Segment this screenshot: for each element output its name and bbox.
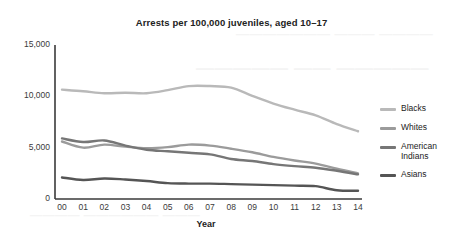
y-tick-label: 5,000 <box>8 142 50 152</box>
x-tick-label: 03 <box>114 202 136 212</box>
x-tick-label: 11 <box>284 202 306 212</box>
legend-label: American Indians <box>401 142 437 161</box>
x-tick-label: 07 <box>199 202 221 212</box>
legend-swatch-icon <box>380 108 396 111</box>
x-tick-label: 09 <box>241 202 263 212</box>
legend-item-whites[interactable]: Whites <box>380 123 463 135</box>
x-tick-label: 13 <box>326 202 348 212</box>
legend-item-blacks[interactable]: Blacks <box>380 104 463 116</box>
y-tick-label: 10,000 <box>8 90 50 100</box>
legend-label: Blacks <box>401 104 426 114</box>
x-axis-title: Year <box>50 219 362 229</box>
legend-item-asians[interactable]: Asians <box>380 170 463 182</box>
y-tick-label: 15,000 <box>8 39 50 49</box>
arrests-by-race-line-chart: ——————— ——— ———— ————— —— ————— ———— ———… <box>0 0 463 252</box>
series-paths <box>62 86 358 191</box>
legend-item-american-indians[interactable]: American Indians <box>380 142 463 163</box>
legend-label: Whites <box>401 123 427 133</box>
x-tick-label: 02 <box>93 202 115 212</box>
x-tick-label: 00 <box>51 202 73 212</box>
x-tick-label: 05 <box>157 202 179 212</box>
x-tick-label: 08 <box>220 202 242 212</box>
series-line-asians <box>62 177 358 190</box>
chart-legend: BlacksWhitesAmerican IndiansAsians <box>380 104 463 189</box>
x-tick-label: 10 <box>262 202 284 212</box>
x-axis-tick-labels: 000102030405060708091011121314 <box>0 202 463 216</box>
axis-lines <box>55 45 362 199</box>
x-tick-label: 04 <box>136 202 158 212</box>
series-line-blacks <box>62 86 358 132</box>
legend-swatch-icon <box>380 127 396 130</box>
legend-swatch-icon <box>380 174 396 177</box>
x-tick-label: 01 <box>72 202 94 212</box>
x-tick-label: 12 <box>305 202 327 212</box>
legend-label: Asians <box>401 170 427 180</box>
x-tick-label: 14 <box>347 202 369 212</box>
legend-swatch-icon <box>380 146 396 149</box>
x-tick-label: 06 <box>178 202 200 212</box>
